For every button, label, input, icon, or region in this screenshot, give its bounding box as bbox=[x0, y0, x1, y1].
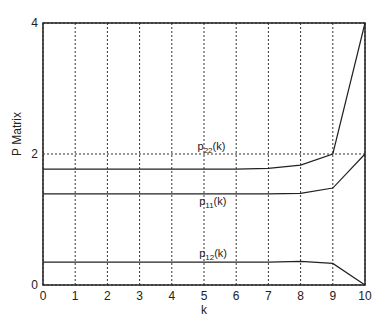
y-tick-label: 0 bbox=[31, 278, 38, 292]
x-tick-label: 9 bbox=[329, 289, 336, 303]
x-tick-label: 2 bbox=[104, 289, 111, 303]
x-tick-label: 7 bbox=[265, 289, 272, 303]
x-tick-label: 1 bbox=[72, 289, 79, 303]
y-tick-labels: 024 bbox=[31, 16, 38, 292]
series-label-p22k: p22(k) bbox=[198, 140, 226, 155]
x-tick-labels: 012345678910 bbox=[40, 289, 372, 303]
x-tick-label: 6 bbox=[233, 289, 240, 303]
x-tick-label: 3 bbox=[136, 289, 143, 303]
y-tick-label: 4 bbox=[31, 16, 38, 30]
series-label-p11k: p11(k) bbox=[199, 195, 226, 210]
x-tick-label: 4 bbox=[168, 289, 175, 303]
x-tick-label: 0 bbox=[40, 289, 47, 303]
y-tick-label: 2 bbox=[31, 147, 38, 161]
series-labels: p22(k)p11(k)p12(k) bbox=[198, 140, 227, 262]
x-axis-label: k bbox=[201, 303, 208, 317]
x-tick-label: 10 bbox=[358, 289, 372, 303]
x-tick-label: 5 bbox=[201, 289, 208, 303]
p-matrix-chart: 012345678910 024 k P Matrix p22(k)p11(k)… bbox=[0, 0, 390, 325]
y-axis-label: P Matrix bbox=[10, 112, 24, 156]
x-tick-label: 8 bbox=[297, 289, 304, 303]
series-label-p12k: p12(k) bbox=[199, 247, 227, 262]
